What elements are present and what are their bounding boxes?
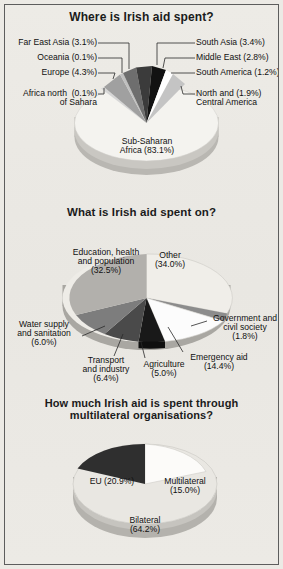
poster-frame: Where is Irish aid spent? (4, 4, 279, 565)
chart2-label-emergency-aid-line2: (14.4%) (183, 362, 255, 372)
chart1-label-north-and-central-america-line2: Central America (196, 98, 279, 108)
chart1-label-south-asia: South Asia (3.4%) (196, 38, 279, 48)
chart2-label-transport-line3: (6.4%) (75, 374, 137, 384)
poster: Where is Irish aid spent? (0, 0, 283, 569)
chart-panel-where-is-irish-aid-spent: Where is Irish aid spent? (5, 5, 278, 195)
chart3-pie-svg (5, 387, 279, 565)
chart3-label-bilateral-line2: (64.2%) (107, 525, 183, 535)
chart3-label-eu: EU (20.9%) (73, 477, 151, 487)
chart1-label-middle-east: Middle East (2.8%) (196, 53, 279, 63)
chart-panel-what-is-irish-aid-spent-on: What is Irish aid spent on? (5, 195, 278, 387)
chart2-label-other-line2: (34.0%) (135, 260, 205, 270)
chart1-label-sub-saharan-africa-line2: Africa (83.1%) (101, 146, 193, 156)
chart1-label-south-america: South America (1.2%) (196, 68, 279, 78)
chart1-label-africa-north-of-sahara-line2: of Sahara (7, 98, 97, 108)
chart3-label-multilateral-line2: (15.0%) (149, 486, 221, 496)
chart-panel-multilateral-organisations: How much Irish aid is spent through mult… (5, 387, 278, 565)
chart1-label-europe: Europe (4.3%) (7, 68, 97, 78)
chart2-label-water-line3: (6.0%) (8, 338, 80, 348)
chart1-label-far-east-asia: Far East Asia (3.1%) (7, 38, 97, 48)
chart1-label-oceania: Oceania (0.1%) (7, 53, 97, 63)
chart2-label-government-line3: (1.8%) (204, 332, 279, 342)
